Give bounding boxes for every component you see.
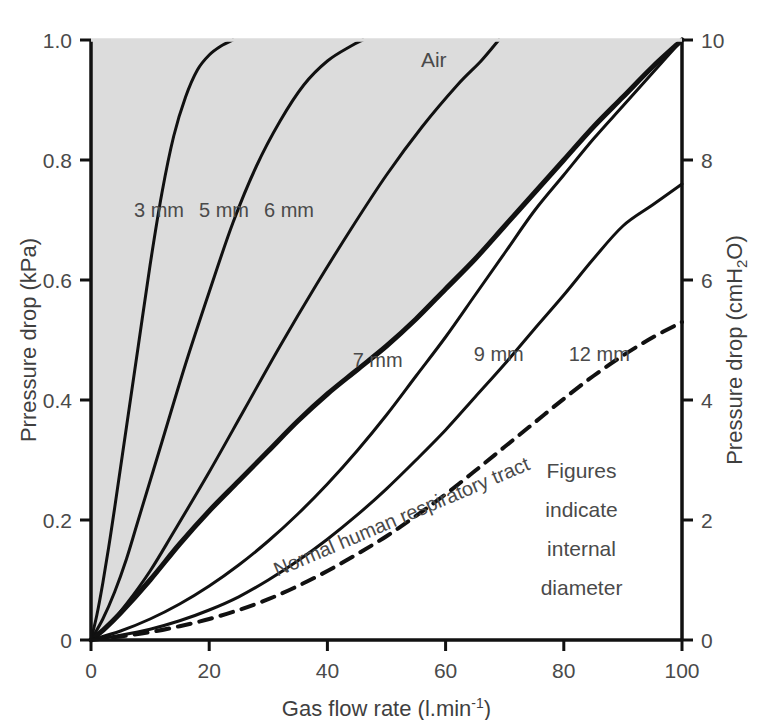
x-axis-title-main: Gas flow rate (l.min [282,696,472,720]
chart-figure: 02040608010000.20.40.60.81.00246810 3 mm… [0,0,771,720]
x-tick-label: 80 [552,659,575,682]
y-tick-label-right: 4 [701,389,713,412]
x-tick-label: 0 [85,659,97,682]
x-axis-title-end: ) [484,696,491,720]
curve-label-5-mm: 5 mm [199,199,249,221]
curve-label-6-mm: 6 mm [264,199,314,221]
y-tick-label-right: 10 [701,29,724,52]
y-tick-label-right: 8 [701,149,713,172]
curve-label-9-mm: 9 mm [474,343,524,365]
y-tick-label-right: 0 [701,629,713,652]
y-tick-label-right: 6 [701,269,713,292]
x-tick-label: 100 [664,659,699,682]
curve-label-7-mm: 7 mm [353,349,403,371]
x-tick-label: 20 [198,659,221,682]
note-line-indicate: indicate [545,498,617,521]
y-tick-label-left: 1.0 [43,29,72,52]
y-tick-label-left: 0.8 [43,149,72,172]
x-tick-label: 60 [434,659,457,682]
y-axis-right-title-main: Pressure drop (cmH [722,268,747,465]
x-tick-label: 40 [316,659,339,682]
x-axis-title-superscript: -1 [471,695,484,711]
y-tick-label-left: 0 [60,629,72,652]
note-line-diameter: diameter [541,576,623,599]
curve-label-12-mm: 12 mm [569,343,630,365]
x-axis-title: Gas flow rate (l.min-1) [282,695,491,720]
y-axis-left-title: Prressure drop (kPa) [16,238,41,442]
note-line-figures: Figures [547,459,617,482]
y-tick-label-left: 0.4 [43,389,73,412]
y-tick-label-right: 2 [701,509,713,532]
y-tick-label-left: 0.2 [43,509,72,532]
curve-label-3-mm: 3 mm [134,199,184,221]
note-line-internal: internal [547,537,616,560]
pressure-drop-vs-flow-chart: 02040608010000.20.40.60.81.00246810 3 mm… [0,0,771,720]
y-axis-right-title-subscript: 2 [733,260,750,268]
y-axis-right-title-end: O) [722,235,747,259]
y-tick-label-left: 0.6 [43,269,72,292]
y-axis-right-title: Pressure drop (cmH2O) [722,235,750,465]
air-region-label: Air [421,48,447,71]
